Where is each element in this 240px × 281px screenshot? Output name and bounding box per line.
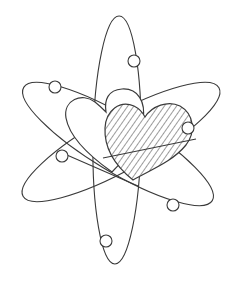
electron-right: [182, 122, 194, 134]
electron-top: [128, 55, 140, 67]
electron-upper-left: [49, 81, 61, 93]
atom-heart-illustration: [0, 0, 240, 281]
electron-lower-right: [167, 199, 179, 211]
hatched-heart: [105, 104, 192, 180]
illustration-svg: [0, 0, 240, 281]
electron-left: [56, 150, 68, 162]
electron-bottom: [100, 235, 112, 247]
